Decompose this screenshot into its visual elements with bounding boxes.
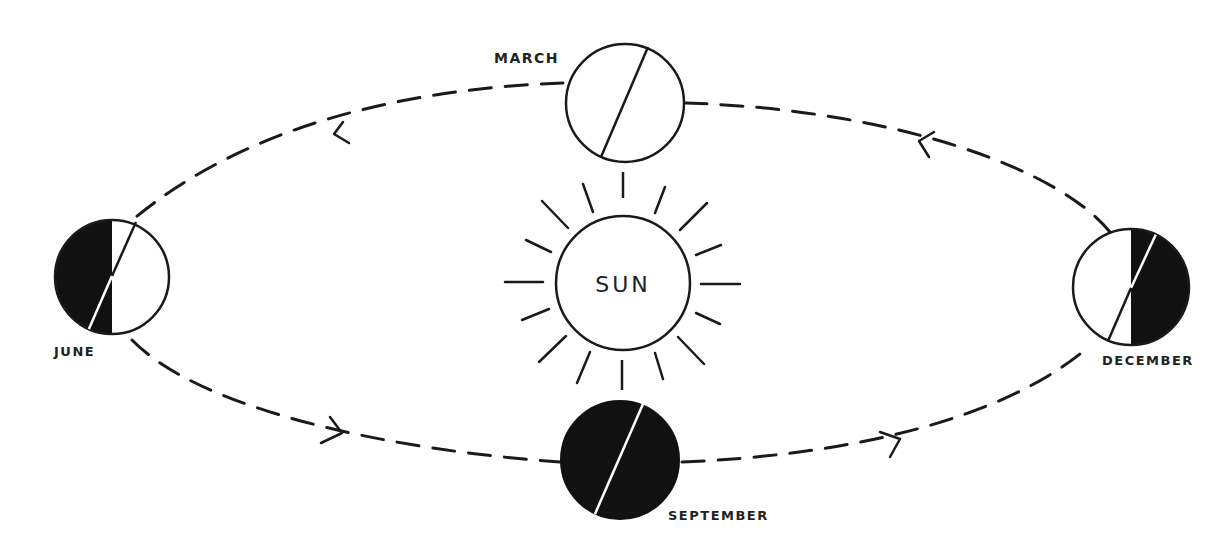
globe-march: MARCH — [494, 44, 684, 162]
globe-september: SEPTEMBER — [561, 401, 769, 523]
globe-december: DECEMBER — [1073, 227, 1194, 368]
sun: SUN — [505, 184, 740, 383]
arrow-icon-bottom-right — [880, 432, 900, 457]
night-side-june — [55, 218, 112, 336]
label-december: DECEMBER — [1102, 353, 1194, 368]
label-september: SEPTEMBER — [668, 508, 769, 523]
night-side-december — [1131, 227, 1191, 347]
label-march: MARCH — [494, 50, 559, 66]
orbit-seasons-diagram: SUN MARCH JUNE SEPTEMBER DECEMBER — [0, 0, 1218, 552]
sun-label: SUN — [595, 272, 651, 297]
earth-icon-september — [561, 401, 679, 519]
label-june: JUNE — [53, 344, 95, 359]
globe-june: JUNE — [53, 218, 169, 359]
arrow-icon-top-left — [334, 122, 349, 143]
